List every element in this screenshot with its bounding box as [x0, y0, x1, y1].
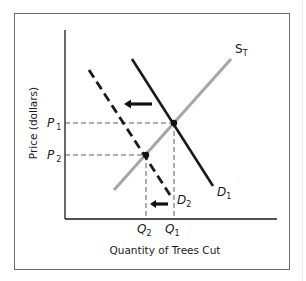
d1-label: D1	[217, 185, 231, 201]
equilibrium-point-2	[143, 152, 149, 158]
q1-tick-label: Q1	[165, 222, 180, 238]
q2-tick-label: Q2	[137, 222, 152, 238]
demand-curve-d2	[89, 70, 172, 198]
supply-label: ST	[235, 42, 248, 58]
x-axis-title: Quantity of Trees Cut	[110, 244, 221, 256]
equilibrium-point-1	[171, 120, 177, 126]
d2-label: D2	[177, 193, 191, 209]
p2-tick-label: P2	[47, 148, 61, 164]
demand-shift-arrow-icon	[124, 100, 152, 109]
supply-demand-chart: ST D1 D2 P1 P2 Q2 Q1 Quantity of Trees C…	[0, 0, 306, 281]
y-axis-title: Price (dollars)	[27, 87, 39, 159]
quantity-shift-arrow-icon	[150, 200, 168, 208]
p1-tick-label: P1	[47, 116, 61, 132]
